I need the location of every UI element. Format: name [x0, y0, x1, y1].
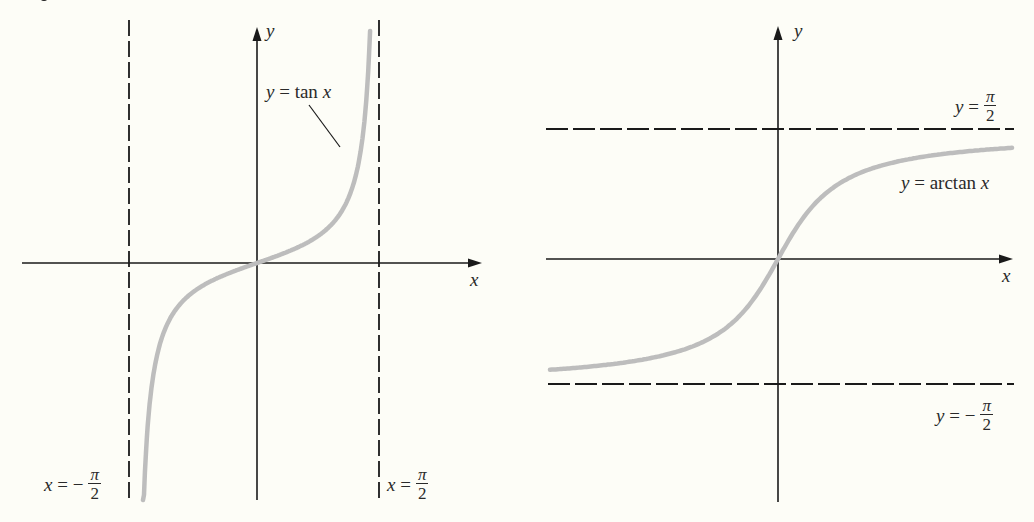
fraction-pi-over-2: π2 [984, 88, 997, 124]
y-axis-arrow-icon [774, 26, 783, 40]
y-axis-arrow-icon [253, 27, 262, 41]
x-axis-arrow-icon [999, 255, 1013, 264]
tan-label-leader-line [309, 105, 340, 147]
asymptote-top-label: y = π2 [955, 88, 996, 124]
arctan-x-axis-label: x [1002, 266, 1010, 285]
asymptote-left-label: x = − π2 [44, 466, 101, 502]
figure-canvas [0, 0, 1034, 522]
arctan-curve-label: y = arctan x [901, 173, 989, 192]
fraction-pi-over-2: π2 [88, 466, 101, 502]
asymptote-right-label: x = π2 [387, 466, 428, 502]
arctan-y-axis-label: y [794, 21, 802, 40]
tan-curve-label: y = tan x [266, 82, 331, 101]
tan-y-axis-label: y [266, 21, 274, 40]
fraction-pi-over-2: π2 [416, 466, 429, 502]
asymptote-bottom-label: y = − π2 [936, 397, 993, 433]
tan-plot [22, 20, 482, 500]
x-axis-arrow-icon [468, 259, 482, 268]
tan-x-axis-label: x [470, 270, 478, 289]
fraction-pi-over-2: π2 [980, 397, 993, 433]
